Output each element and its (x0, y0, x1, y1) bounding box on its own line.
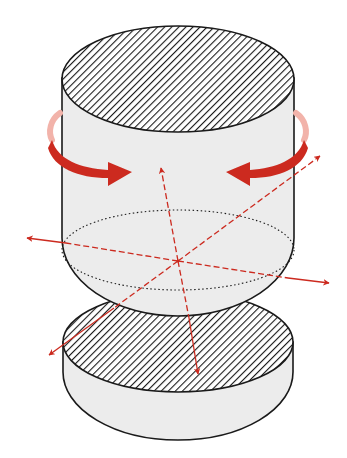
rotation-arrow-right-tail (296, 113, 306, 140)
rotation-arrow-left-tail (50, 113, 60, 140)
axis-left (27, 238, 66, 243)
diagram-canvas (0, 0, 347, 458)
upper-cylinder-hatched-face (62, 26, 294, 132)
cylinder-diagram (0, 0, 347, 458)
axis-right (288, 278, 329, 283)
